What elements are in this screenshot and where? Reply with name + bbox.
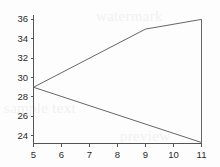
x-tick-label: 9 <box>134 149 158 160</box>
y-tick-label: 26 <box>4 110 28 121</box>
chart-screenshot: sample text watermark preview 2426283032… <box>0 0 220 167</box>
x-tick-label: 7 <box>78 149 102 160</box>
x-tick-label: 6 <box>50 149 74 160</box>
y-tick-label: 28 <box>4 91 28 102</box>
series-upper-bound <box>34 19 202 87</box>
chart-series-lines <box>34 19 202 142</box>
y-tick-label: 32 <box>4 52 28 63</box>
chart-plot-area <box>0 0 220 167</box>
series-lower-bound <box>34 87 202 142</box>
y-tick-label: 34 <box>4 33 28 44</box>
x-tick-label: 10 <box>162 149 186 160</box>
y-tick-label: 36 <box>4 13 28 24</box>
chart-tick-marks <box>31 19 202 146</box>
x-tick-label: 8 <box>106 149 130 160</box>
x-tick-label: 11 <box>190 149 214 160</box>
x-tick-label: 5 <box>22 149 46 160</box>
chart-axes <box>34 15 203 144</box>
y-tick-label: 24 <box>4 130 28 141</box>
y-tick-label: 30 <box>4 72 28 83</box>
